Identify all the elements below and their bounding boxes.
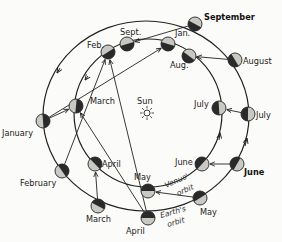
sun: Sun bbox=[137, 96, 154, 120]
sightline-7 bbox=[227, 110, 241, 113]
sightline-8 bbox=[197, 57, 228, 60]
sun-label: Sun bbox=[137, 96, 153, 106]
venus-label-aug: Aug. bbox=[170, 60, 189, 70]
earth-position-january bbox=[36, 114, 50, 128]
earth-label-september: September bbox=[204, 12, 256, 22]
earth-position-may bbox=[193, 191, 207, 205]
earth-position-march bbox=[91, 199, 105, 213]
venus-position-may bbox=[141, 184, 155, 198]
sun-icon bbox=[140, 106, 154, 120]
venus-label-march: March bbox=[90, 96, 115, 106]
venus-position-april bbox=[88, 157, 102, 171]
earth-position-february bbox=[55, 164, 69, 178]
venus-orbit-direction-arrow bbox=[85, 76, 88, 80]
venus-label-feb: Feb. bbox=[87, 40, 104, 50]
earth-position-april bbox=[141, 211, 155, 225]
earth-label-march: March bbox=[86, 214, 111, 224]
earth-label-august: August bbox=[243, 56, 272, 66]
earth-label-april: April bbox=[126, 226, 145, 236]
earth-position-june bbox=[230, 157, 244, 171]
venus-position-jan bbox=[161, 37, 175, 51]
sightline-2 bbox=[96, 172, 98, 199]
earth-orbit-direction-arrow bbox=[57, 68, 60, 73]
earth-label-june: June bbox=[243, 167, 265, 177]
earth-position-august bbox=[228, 53, 242, 67]
sightline-3 bbox=[110, 60, 146, 211]
earth-label-january: January bbox=[1, 128, 33, 138]
venus-position-july bbox=[212, 101, 226, 115]
venus-position-march bbox=[69, 99, 83, 113]
venus-earth-orbit-diagram: Sun Venus' orbit Earth's orbit JanuaryFe… bbox=[0, 0, 282, 242]
earth-label-may: May bbox=[200, 207, 217, 217]
venus-label-april: April bbox=[102, 159, 121, 169]
venus-label-june: June bbox=[174, 157, 193, 167]
venus-label-sept: Sept. bbox=[120, 27, 141, 37]
venus-position-sept bbox=[120, 37, 134, 51]
venus-position-june bbox=[195, 157, 209, 171]
earth-label-february: February bbox=[20, 178, 56, 188]
earth-label-july: July bbox=[255, 110, 271, 120]
earth-position-july bbox=[241, 107, 255, 121]
venus-label-jan: Jan. bbox=[174, 28, 190, 38]
venus-label-may: May bbox=[134, 172, 151, 182]
venus-label-july: July bbox=[193, 99, 209, 109]
